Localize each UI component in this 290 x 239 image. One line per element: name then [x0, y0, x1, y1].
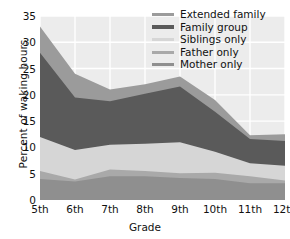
y-tick-label: 10 — [14, 141, 36, 153]
legend-swatch-icon — [152, 13, 174, 16]
y-tick-label: 25 — [14, 63, 36, 75]
y-tick-label: 30 — [14, 36, 36, 48]
chart-legend: Extended familyFamily groupSiblings only… — [152, 8, 286, 71]
x-tick-label: 8th — [136, 203, 153, 215]
y-tick-label: 5 — [14, 168, 36, 180]
legend-item-label: Mother only — [180, 58, 243, 71]
legend-item[interactable]: Family group — [152, 21, 286, 34]
x-tick-label: 7th — [101, 203, 118, 215]
legend-swatch-icon — [152, 63, 174, 66]
x-tick-label: 10th — [203, 203, 227, 215]
y-tick-label: 15 — [14, 115, 36, 127]
legend-item-label: Father only — [180, 46, 239, 59]
y-tick-label: 20 — [14, 89, 36, 101]
x-tick-label: 9th — [171, 203, 188, 215]
x-tick-label: 6th — [66, 203, 83, 215]
stacked-area-chart: Percent of waking hours 05101520253035 5… — [0, 0, 290, 239]
legend-swatch-icon — [152, 38, 174, 41]
legend-item[interactable]: Mother only — [152, 58, 286, 71]
y-tick-label: 35 — [14, 10, 36, 22]
legend-item-label: Extended family — [180, 8, 266, 21]
x-tick-label: 5th — [31, 203, 48, 215]
x-axis-title: Grade — [0, 221, 290, 233]
x-axis-tick-labels: 5th6th7th8th9th10th11th12th — [0, 203, 290, 219]
legend-item[interactable]: Extended family — [152, 8, 286, 21]
legend-item-label: Siblings only — [180, 33, 246, 46]
legend-item[interactable]: Siblings only — [152, 33, 286, 46]
legend-swatch-icon — [152, 25, 174, 29]
legend-item-label: Family group — [180, 21, 248, 34]
x-tick-label: 12th — [273, 203, 290, 215]
legend-swatch-icon — [152, 51, 174, 54]
x-tick-label: 11th — [238, 203, 262, 215]
legend-item[interactable]: Father only — [152, 46, 286, 59]
